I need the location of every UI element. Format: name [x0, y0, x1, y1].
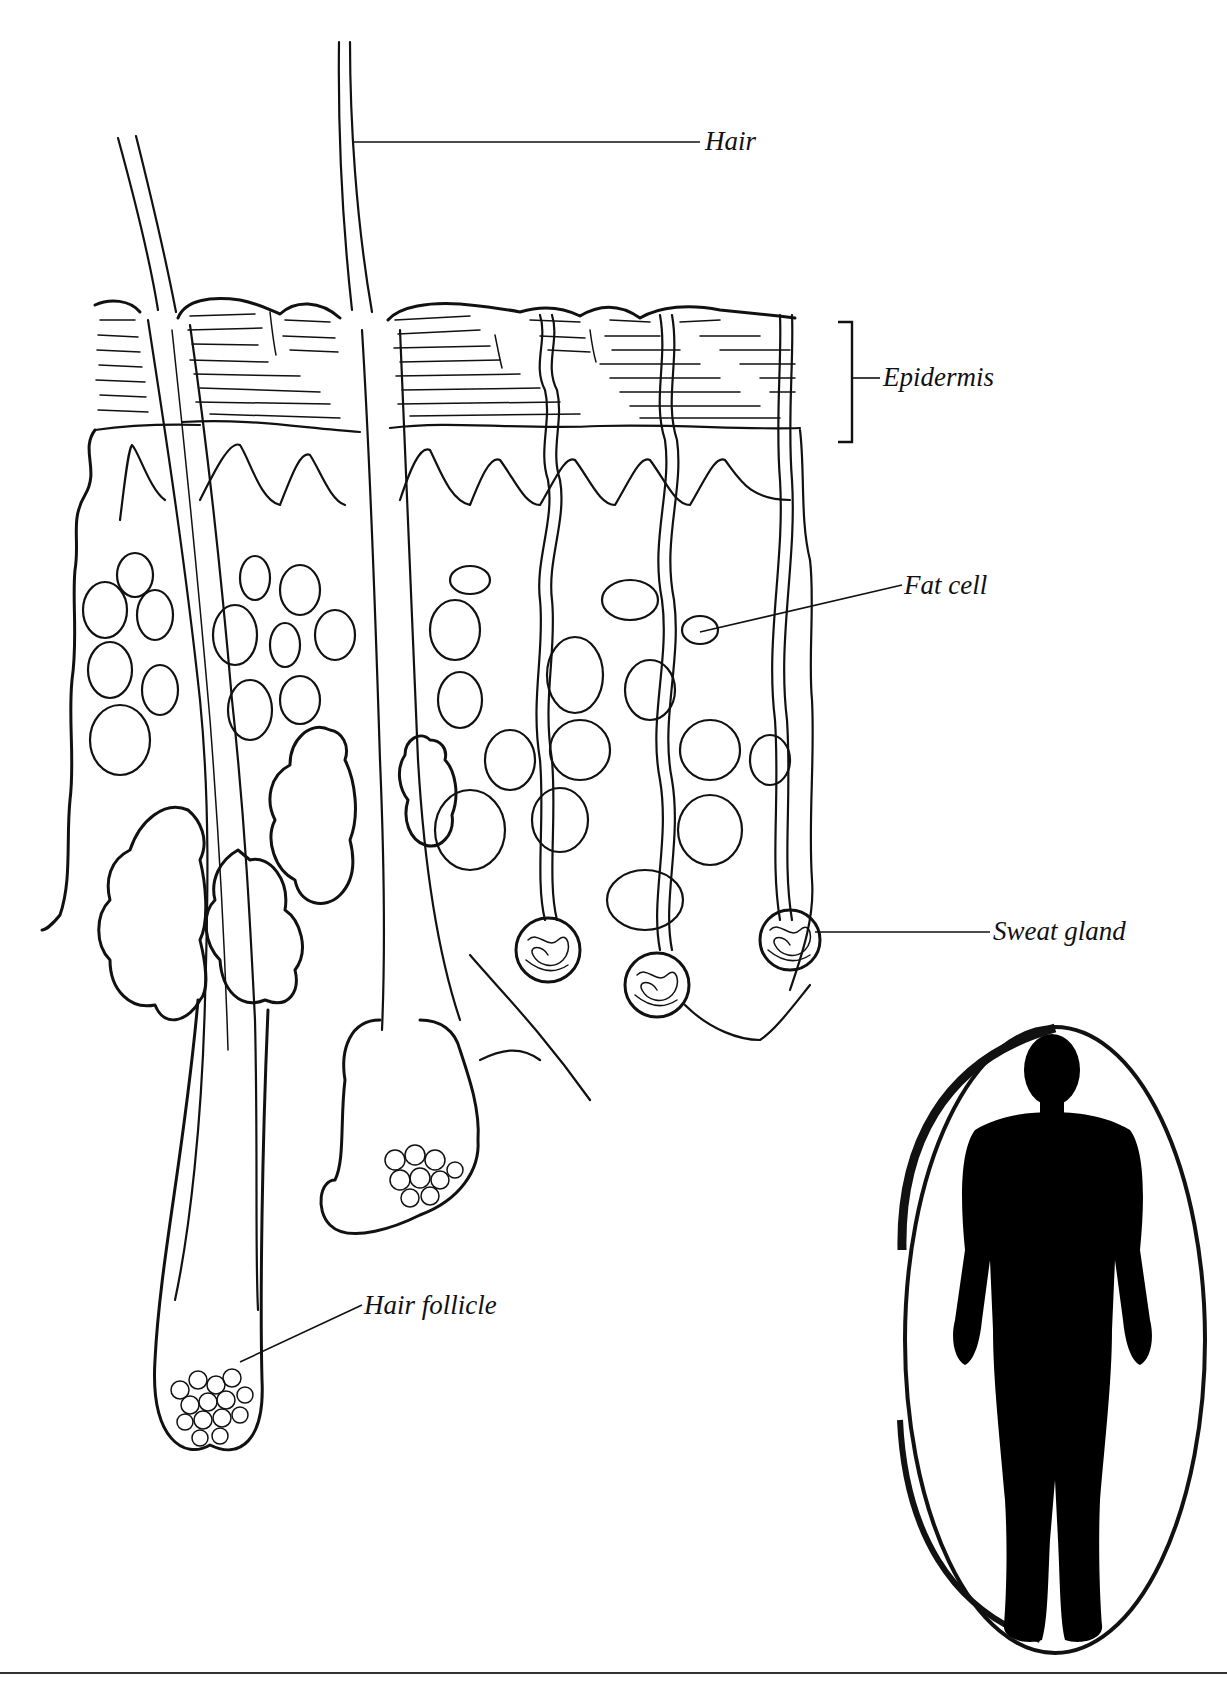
- epidermis-bracket: [838, 322, 852, 442]
- human-silhouette-icon: [953, 1034, 1152, 1642]
- label-sweat-gland: Sweat gland: [993, 918, 1126, 945]
- hair-follicle-leader-line: [240, 1305, 362, 1362]
- dermal-papillae: [120, 444, 790, 520]
- label-hair-follicle: Hair follicle: [364, 1292, 497, 1319]
- fat-cell-leader-line: [700, 585, 902, 632]
- body-silhouette-inset: [900, 1027, 1205, 1653]
- bottom-divider-line: [0, 1672, 1227, 1674]
- skin-diagram-drawing: [0, 0, 1227, 1683]
- hair-shaft-right: [339, 42, 372, 312]
- label-fat-cell: Fat cell: [904, 572, 987, 599]
- hair-follicle-left: [148, 320, 268, 1450]
- label-leaders: [240, 142, 990, 1362]
- skin-cross-section-figure: Hair Epidermis Fat cell Sweat gland Hair…: [0, 0, 1227, 1683]
- label-hair: Hair: [705, 128, 756, 155]
- sweat-glands: [516, 910, 820, 1040]
- sweat-gland-ducts: [536, 315, 792, 950]
- hair-shaft-left: [118, 136, 176, 312]
- dermis-boundary: [42, 430, 813, 990]
- label-epidermis: Epidermis: [883, 364, 994, 391]
- sebaceous-glands: [99, 727, 456, 1019]
